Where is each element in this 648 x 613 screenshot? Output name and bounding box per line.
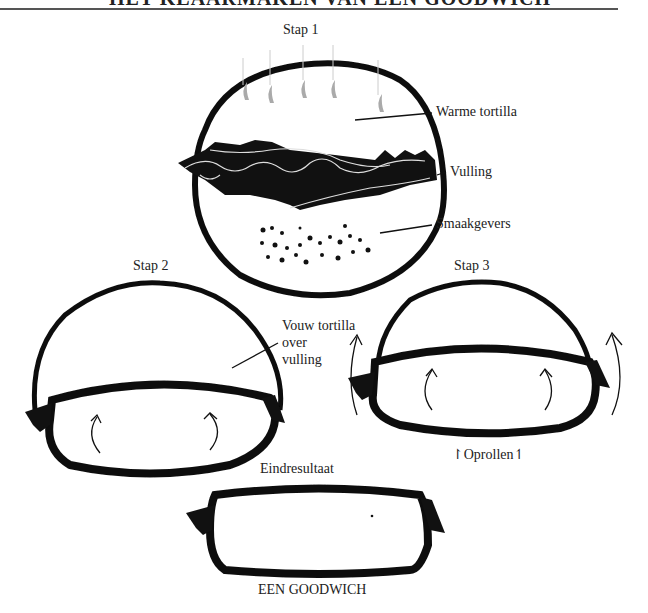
step2-label: Stap 2 — [133, 258, 168, 274]
fold-label-line2: over — [282, 335, 307, 351]
goodwich-diagram — [0, 0, 648, 613]
filling-label: Vulling — [450, 164, 492, 180]
step3-label: Stap 3 — [454, 258, 489, 274]
roll-arrow-right-icon: ↿ — [514, 447, 526, 462]
roll-text: Oprollen — [464, 447, 514, 462]
warm-tortilla-label: Warme tortilla — [436, 104, 517, 120]
seasoning-label: Smaakgevers — [436, 216, 511, 232]
step1-tortilla — [178, 45, 446, 295]
fold-label-line1: Vouw tortilla — [282, 318, 355, 334]
goodwich-caption: EEN GOODWICH — [258, 582, 366, 598]
roll-arrow-left-icon: ↾ — [452, 447, 464, 462]
step1-label: Stap 1 — [283, 22, 318, 38]
step3-roll — [348, 282, 622, 433]
fold-label-line3: vulling — [282, 352, 322, 368]
final-label: Eindresultaat — [260, 461, 334, 477]
final-goodwich — [186, 489, 445, 575]
step2-fold — [25, 283, 285, 474]
roll-label: ↾Oprollen↿ — [452, 446, 525, 463]
